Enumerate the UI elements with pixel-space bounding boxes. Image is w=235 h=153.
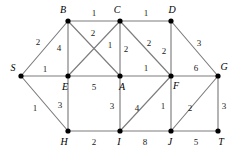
edge-weight-b-a: 2 [91,29,96,38]
edge-weight-g-t: 3 [222,102,227,111]
graph-node-t [215,128,220,133]
graph-node-e [65,73,70,78]
node-label-t: T [218,137,224,147]
edge-weight-b-c: 1 [92,9,97,18]
edge-weight-s-b: 2 [36,38,41,47]
node-label-s: S [11,63,16,73]
edge-weight-f-i: 4 [135,104,140,113]
edge-weight-g-j: 2 [188,104,193,113]
graph-node-s [18,73,23,78]
node-label-f: F [173,81,179,91]
node-label-d: D [168,5,175,15]
edge-weight-c-d: 1 [144,9,149,18]
edge-weight-s-e: 1 [43,65,48,74]
graph-node-b [65,18,70,23]
graph-node-f [168,73,173,78]
edge-weight-c-a: 2 [124,45,129,54]
graph-node-h [65,128,70,133]
graph-node-g [215,73,220,78]
graph-node-d [168,18,173,23]
weighted-graph-diagram: 112114212223516334123285SBCDEAFGHIJT [0,0,235,153]
edge-weight-b-e: 4 [57,44,62,53]
edge-weight-j-t: 5 [194,138,199,147]
edge-weight-c-e: 1 [108,41,113,50]
edge-weight-a-f: 1 [144,64,149,73]
edge-weight-i-j: 8 [143,138,148,147]
node-label-j: J [168,137,172,147]
edge-weight-a-i: 3 [110,102,115,111]
graph-node-i [117,128,122,133]
node-label-g: G [220,62,227,72]
node-label-a: A [119,82,125,92]
graph-node-j [168,128,173,133]
edge-weight-d-f: 2 [162,47,167,56]
edge-weight-f-g: 6 [194,64,199,73]
node-label-c: C [114,5,121,15]
node-label-i: I [117,137,120,147]
graph-canvas [0,0,235,153]
node-label-e: E [62,82,68,92]
node-label-h: H [60,137,67,147]
edge-weight-c-f: 2 [147,39,152,48]
edge-weight-f-j: 1 [161,102,166,111]
node-label-b: B [60,5,66,15]
edge-weight-h-i: 2 [92,138,97,147]
edge-weight-e-h: 3 [58,101,63,110]
edge-weight-s-h: 1 [33,104,38,113]
edge-weight-e-a: 5 [92,83,97,92]
graph-node-c [117,18,122,23]
graph-node-a [117,73,122,78]
edge-weight-d-g: 3 [197,39,202,48]
